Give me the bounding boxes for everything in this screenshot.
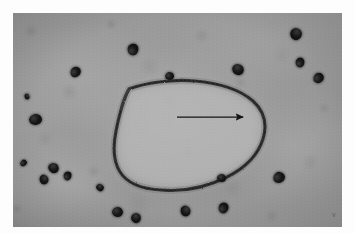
plate-pencil-annotation: v xyxy=(331,210,336,219)
plate-vignette xyxy=(13,13,342,227)
electron-micrograph-figure: v xyxy=(0,0,355,233)
micrograph-plate: v xyxy=(13,13,342,227)
